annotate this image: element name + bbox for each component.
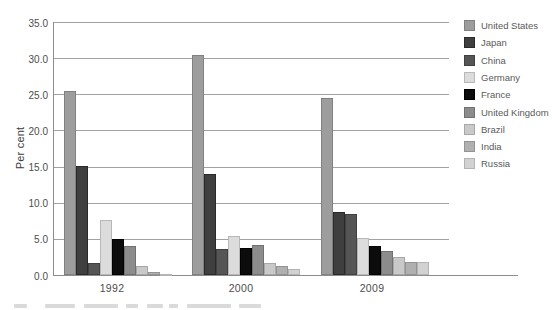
caption-fragment [239, 304, 261, 308]
bar-united-states-2000 [192, 55, 204, 275]
y-tick-label: 20.0 [16, 125, 48, 136]
bar-united-states-2009 [321, 98, 333, 275]
legend-swatch [464, 107, 475, 118]
bar-china-2000 [216, 249, 228, 275]
legend-swatch [464, 55, 475, 66]
x-axis-line [53, 275, 518, 276]
legend-swatch [464, 37, 475, 48]
caption-fragment [45, 304, 75, 308]
bar-france-2000 [240, 248, 252, 275]
legend-label: France [481, 89, 511, 100]
bar-india-2009 [405, 262, 417, 275]
bar-united-states-1992 [64, 91, 76, 275]
legend-label: United States [481, 20, 538, 31]
bar-united-kingdom-1992 [124, 246, 136, 275]
bar-france-1992 [112, 239, 124, 275]
bar-united-kingdom-2009 [381, 251, 393, 275]
bar-japan-1992 [76, 166, 88, 275]
bar-germany-2009 [357, 238, 369, 275]
caption-fragment [187, 304, 231, 308]
legend-label: Brazil [481, 124, 505, 135]
legend-label: Germany [481, 72, 520, 83]
y-tick-label: 15.0 [16, 162, 48, 173]
legend-swatch [464, 89, 475, 100]
legend-swatch [464, 141, 475, 152]
y-tick-label: 35.0 [16, 17, 48, 28]
bar-brazil-2009 [393, 257, 405, 275]
y-tick-label: 30.0 [16, 53, 48, 64]
legend-label: Japan [481, 37, 507, 48]
bar-russia-2000 [288, 269, 300, 275]
bar-russia-1992 [160, 274, 172, 276]
bar-france-2009 [369, 246, 381, 275]
x-tick-label: 1992 [100, 282, 125, 294]
legend-swatch [464, 158, 475, 169]
bar-brazil-1992 [136, 266, 148, 275]
bar-china-1992 [88, 263, 100, 275]
legend-label: India [481, 141, 502, 152]
caption-fragment [126, 304, 138, 308]
legend-label: United Kingdom [481, 107, 549, 118]
caption-fragment [84, 304, 118, 308]
legend-item-china: China [464, 55, 506, 66]
bar-japan-2000 [204, 174, 216, 275]
legend-item-japan: Japan [464, 37, 507, 48]
x-tick-label: 2000 [229, 282, 254, 294]
bar-germany-1992 [100, 220, 112, 275]
gridline [53, 167, 449, 168]
legend-item-united-states: United States [464, 20, 538, 31]
bar-russia-2009 [417, 262, 429, 275]
legend-label: Russia [481, 158, 510, 169]
legend-swatch [464, 20, 475, 31]
y-tick-label: 10.0 [16, 198, 48, 209]
legend-item-germany: Germany [464, 72, 520, 83]
legend-item-brazil: Brazil [464, 124, 505, 135]
legend-label: China [481, 55, 506, 66]
bar-chart-figure: Per cent 0.05.010.015.020.025.030.035.01… [0, 0, 552, 310]
bar-india-2000 [276, 266, 288, 275]
legend-item-russia: Russia [464, 158, 510, 169]
legend-swatch [464, 72, 475, 83]
gridline [53, 94, 449, 95]
legend-swatch [464, 124, 475, 135]
bar-india-1992 [148, 272, 160, 275]
legend-item-india: India [464, 141, 502, 152]
y-tick-label: 0.0 [16, 270, 48, 281]
y-tick-label: 25.0 [16, 89, 48, 100]
bar-united-kingdom-2000 [252, 245, 264, 275]
bar-japan-2009 [333, 212, 345, 275]
legend-item-united-kingdom: United Kingdom [464, 107, 549, 118]
caption-fragment [14, 304, 27, 308]
caption-fragment [147, 304, 163, 308]
bar-germany-2000 [228, 236, 240, 275]
gridline [53, 22, 449, 23]
x-tick-label: 2009 [360, 282, 385, 294]
bar-china-2009 [345, 214, 357, 275]
y-tick-label: 5.0 [16, 234, 48, 245]
legend-item-france: France [464, 89, 511, 100]
gridline [53, 130, 449, 131]
bar-brazil-2000 [264, 263, 276, 275]
gridline [53, 58, 449, 59]
y-axis-line [53, 22, 54, 275]
gridline [53, 203, 449, 204]
caption-fragment [169, 304, 178, 308]
